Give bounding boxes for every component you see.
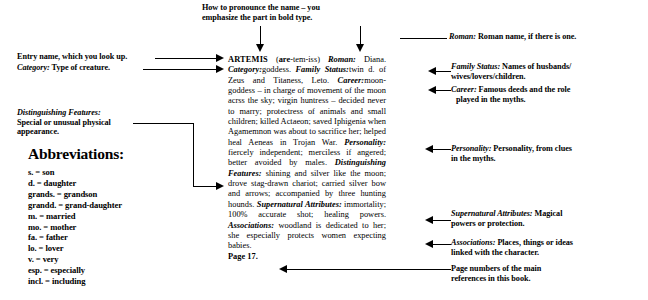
roman-note: Roman: Roman name, if there is one. — [449, 32, 576, 42]
abbreviation-item: fa. = father — [28, 232, 122, 243]
abbreviation-item: incl. = including — [28, 276, 122, 287]
entry-pronunciation-rest: -tem-iss) — [290, 55, 320, 64]
entry-pronunciation-open — [268, 55, 276, 64]
category-connector — [143, 69, 217, 70]
sample-dictionary-entry: ARTEMIS (are-tem-iss) Roman: Diana. Cate… — [228, 55, 386, 262]
page-numbers-note: Page numbers of the main references in t… — [451, 264, 541, 283]
associations-note-label: Associations: — [451, 238, 495, 247]
entry-field-label-supernatural-attributes: Supernatural Attributes: — [257, 200, 342, 209]
supernatural-attributes-connector — [433, 220, 451, 221]
supernatural-attributes-note: Supernatural Attributes: Magical powers … — [451, 209, 562, 228]
abbreviation-item: lo. = lover — [28, 243, 122, 254]
distinguishing-connector-bottom — [193, 186, 217, 187]
personality-note: Personality: Personality, from clues in … — [451, 144, 572, 163]
distinguishing-features-note: Distinguishing Features: Special or unus… — [17, 108, 111, 137]
entry-pronunciation-stress: are — [279, 55, 290, 64]
page-numbers-connector — [287, 269, 451, 270]
associations-arrow-head — [425, 240, 433, 248]
entry-field-value-category: goddess. — [262, 65, 296, 74]
supernatural-attributes-note-label: Supernatural Attributes: — [451, 209, 533, 218]
distinguishing-arrow-head — [216, 182, 224, 190]
career-connector — [436, 90, 451, 91]
pronunciation-note-line2: emphasize the part in bold type. — [202, 13, 320, 23]
abbreviation-item: grands. = grandson — [28, 189, 122, 200]
associations-note-line1: Places, things or ideas — [495, 238, 573, 247]
category-arrow-head — [216, 65, 224, 73]
career-arrow-head — [428, 86, 436, 94]
roman-pointer-vertical — [360, 26, 361, 46]
entry-field-value-career: moon-goddess – in charge of movement of … — [228, 76, 386, 147]
family-status-note-line1: Names of husbands/ — [500, 62, 571, 71]
career-note-line2: played in the myths. — [451, 95, 570, 105]
personality-connector — [433, 149, 451, 150]
entry-name-arrow-head — [216, 54, 224, 62]
entry-page-reference: Page 17. — [228, 252, 258, 261]
roman-note-label: Roman: — [449, 32, 476, 41]
roman-connector — [400, 38, 447, 39]
entry-field-label-career: Career: — [338, 76, 365, 85]
roman-bold-arrow-head — [356, 44, 364, 52]
entry-name-note-text: Entry name, which you look up. — [17, 52, 127, 61]
entry-field-label-category: Category: — [228, 65, 262, 74]
entry-field-label-roman: Roman: — [328, 55, 356, 64]
career-note-label: Career: — [451, 85, 477, 94]
career-note: Career: Famous deeds and the role played… — [451, 85, 570, 104]
pronunciation-connector-line — [260, 26, 261, 46]
entry-field-label-associations: Associations: — [228, 221, 274, 230]
abbreviation-item: m. = married — [28, 211, 122, 222]
category-note: Category: Type of creature. — [17, 63, 110, 73]
family-status-note-label: Family Status: — [451, 62, 500, 71]
supernatural-attributes-note-line1: Magical — [533, 209, 563, 218]
entry-field-label-personality: Personality: — [344, 138, 386, 147]
abbreviation-item: grandd. = grand-daughter — [28, 200, 122, 211]
family-status-note-line2: wives/lovers/children. — [451, 72, 571, 82]
distinguishing-features-note-label: Distinguishing Features: — [17, 108, 111, 118]
associations-connector — [433, 244, 451, 245]
distinguishing-connector-vertical — [193, 123, 194, 187]
page-numbers-note-line1: Page numbers of the main — [451, 264, 541, 274]
distinguishing-features-note-line2: Special or unusual physical — [17, 118, 111, 128]
page-numbers-arrow-head — [279, 265, 287, 273]
abbreviation-item: d. = daughter — [28, 178, 122, 189]
entry-name-connector — [155, 58, 217, 59]
abbreviation-item: mo. = mother — [28, 222, 122, 233]
pronunciation-arrow-head — [256, 44, 264, 52]
distinguishing-features-note-line3: appearance. — [17, 127, 111, 137]
entry-name: ARTEMIS — [228, 55, 268, 64]
entry-field-label-family-status: Family Status: — [296, 65, 349, 74]
abbreviations-heading: Abbreviations: — [28, 145, 124, 162]
career-note-line1: Famous deeds and the role — [477, 85, 571, 94]
entry-field-value-roman: Diana. — [356, 55, 386, 64]
pronunciation-note: How to pronounce the name – you emphasiz… — [202, 3, 320, 22]
family-status-arrow-head — [428, 67, 436, 75]
supernatural-attributes-arrow-head — [425, 216, 433, 224]
abbreviation-item: v. = very — [28, 254, 122, 265]
personality-note-line1: Personality, from clues — [491, 144, 572, 153]
distinguishing-connector-top — [133, 123, 194, 124]
personality-note-label: Personality: — [451, 144, 491, 153]
category-note-text: Type of creature. — [50, 63, 110, 72]
personality-note-line2: in the myths. — [451, 154, 572, 164]
roman-note-text: Roman name, if there is one. — [476, 32, 576, 41]
personality-arrow-head — [425, 145, 433, 153]
supernatural-attributes-note-line2: powers or protection. — [451, 219, 562, 229]
entry-name-note: Entry name, which you look up. — [17, 52, 127, 62]
abbreviation-item: s. = son — [28, 167, 122, 178]
pronunciation-note-line1: How to pronounce the name – you — [202, 3, 320, 13]
page-numbers-note-line2: references in this book. — [451, 274, 541, 284]
family-status-note: Family Status: Names of husbands/ wives/… — [451, 62, 571, 81]
family-status-connector — [436, 71, 451, 72]
associations-note-line2: linked with the character. — [451, 248, 573, 258]
category-note-label: Category: — [17, 63, 50, 72]
abbreviation-item: esp. = especially — [28, 265, 122, 276]
abbreviations-list: s. = son d. = daughter grands. = grandso… — [28, 167, 122, 287]
associations-note: Associations: Places, things or ideas li… — [451, 238, 573, 257]
